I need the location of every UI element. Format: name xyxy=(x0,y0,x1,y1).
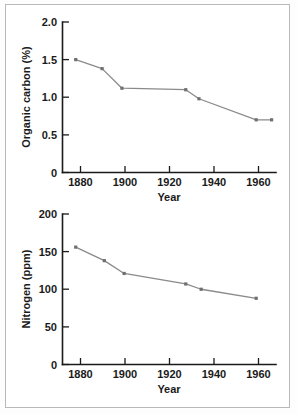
data-point-marker xyxy=(270,118,273,121)
x-tick-label: 1940 xyxy=(202,368,226,380)
x-tick-label: 1900 xyxy=(113,176,137,188)
x-axis-nitrogen: 1880 1900 1920 1940 1960 xyxy=(63,358,277,380)
series-organic-carbon xyxy=(74,58,273,121)
x-tick-label: 1960 xyxy=(246,176,270,188)
x-axis-title: Year xyxy=(157,383,181,395)
y-axis-title: Organic carbon (%) xyxy=(20,46,32,148)
data-point-marker xyxy=(184,282,187,285)
x-tick-label: 1880 xyxy=(68,368,92,380)
figure-page: 2.0 1.5 1.0 0.5 0 1880 1900 1920 1940 19… xyxy=(0,0,297,414)
y-tick-label: 50 xyxy=(45,321,57,333)
data-point-marker xyxy=(184,88,187,91)
x-tick-label: 1920 xyxy=(157,368,181,380)
y-axis-nitrogen: 200 150 100 50 0 xyxy=(39,208,69,371)
data-point-marker xyxy=(123,272,126,275)
x-tick-label: 1940 xyxy=(202,176,226,188)
data-point-marker xyxy=(120,87,123,90)
chart-panel-nitrogen: 200 150 100 50 0 1880 1900 1920 1940 196… xyxy=(0,201,297,408)
series-nitrogen xyxy=(74,246,258,300)
y-tick-label: 0 xyxy=(51,359,57,371)
data-point-marker xyxy=(200,288,203,291)
x-tick-label: 1880 xyxy=(68,176,92,188)
y-tick-label: 150 xyxy=(39,246,57,258)
y-tick-label: 1.0 xyxy=(42,91,57,103)
data-point-marker xyxy=(255,297,258,300)
data-point-marker xyxy=(74,246,77,249)
x-tick-label: 1920 xyxy=(157,176,181,188)
y-axis-title: Nitrogen (ppm) xyxy=(20,249,32,328)
chart-panel-organic-carbon: 2.0 1.5 1.0 0.5 0 1880 1900 1920 1940 19… xyxy=(0,0,297,207)
y-tick-label: 100 xyxy=(39,283,57,295)
x-tick-label: 1900 xyxy=(113,368,137,380)
x-tick-label: 1960 xyxy=(246,368,270,380)
data-point-marker xyxy=(74,58,77,61)
organic-carbon-chart: 2.0 1.5 1.0 0.5 0 1880 1900 1920 1940 19… xyxy=(0,0,297,207)
data-point-marker xyxy=(103,259,106,262)
nitrogen-chart: 200 150 100 50 0 1880 1900 1920 1940 196… xyxy=(0,201,297,414)
data-point-marker xyxy=(255,118,258,121)
data-point-marker xyxy=(101,67,104,70)
data-point-marker xyxy=(197,97,200,100)
x-axis-organic-carbon: 1880 1900 1920 1940 1960 xyxy=(63,166,277,188)
y-tick-label: 0.5 xyxy=(42,129,57,141)
y-tick-label: 1.5 xyxy=(42,54,57,66)
y-tick-label: 2.0 xyxy=(42,16,57,28)
y-tick-label: 0 xyxy=(51,167,57,179)
y-axis-organic-carbon: 2.0 1.5 1.0 0.5 0 xyxy=(42,16,69,179)
y-tick-label: 200 xyxy=(39,208,57,220)
